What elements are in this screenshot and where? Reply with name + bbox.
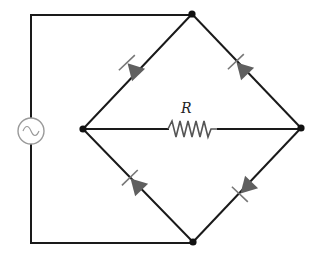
resistor-branch: R [83,100,301,137]
node-top [188,10,195,17]
ac-source-icon [18,118,44,144]
resistor-icon [168,121,218,137]
node-bottom [189,238,196,245]
diode-d1-icon [119,55,147,82]
node-right [297,124,304,131]
top-supply-wire [31,15,192,118]
node-left [79,125,86,132]
bridge-rectifier-diagram: R [0,0,319,257]
resistor-label: R [180,100,192,116]
